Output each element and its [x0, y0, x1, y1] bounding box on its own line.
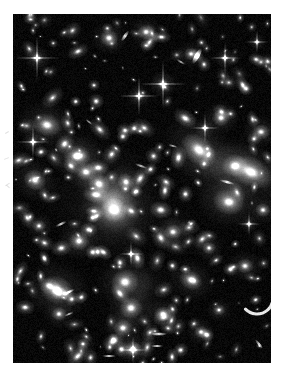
galaxy-cluster-canvas [13, 14, 271, 363]
scan-mark-4 [6, 185, 10, 188]
scan-mark-2 [4, 157, 9, 160]
galaxy-cluster-image-frame [13, 14, 271, 363]
margin-scan-marks [0, 0, 13, 379]
scan-mark-1 [5, 131, 9, 134]
page-root [0, 0, 283, 379]
